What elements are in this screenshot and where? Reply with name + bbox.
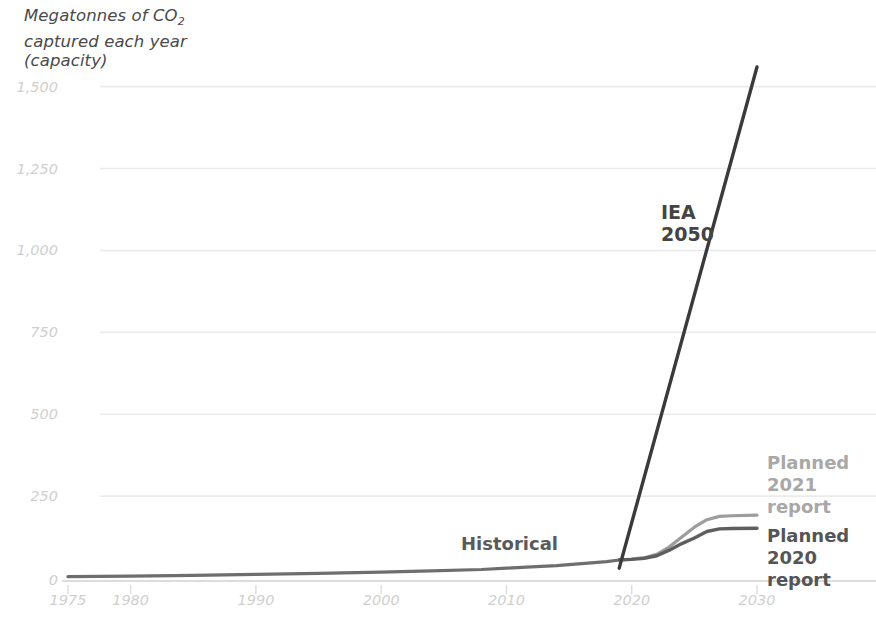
legend-label-planned-2020-report: Planned 2020 report (767, 525, 849, 591)
axis-title-line1: Megatonnes of CO (24, 6, 178, 25)
x-tick-label-1975: 1975 (50, 592, 87, 608)
series-line-iea-2050 (619, 67, 757, 568)
chart-container: Megatonnes of CO2captured each year(capa… (0, 0, 876, 632)
y-tick-label-1500: 1,500 (0, 79, 58, 95)
axis-title-line2: captured each year (24, 32, 187, 51)
y-tick-label-0: 0 (0, 572, 58, 588)
annotation-historical: Historical (461, 533, 558, 555)
y-tick-label-1000: 1,000 (0, 242, 58, 258)
axis-title-subscript: 2 (178, 15, 185, 28)
chart-axis-title: Megatonnes of CO2captured each year(capa… (24, 6, 187, 71)
chart-plot-area (0, 0, 876, 632)
series-line-historical (68, 560, 619, 577)
y-tick-label-250: 250 (0, 488, 58, 504)
series-line-planned-2021-report (619, 515, 757, 560)
y-tick-label-1250: 1,250 (0, 161, 58, 177)
x-tick-label-2010: 2010 (488, 592, 525, 608)
x-tick-label-2030: 2030 (739, 592, 776, 608)
x-tick-label-1990: 1990 (237, 592, 274, 608)
y-tick-label-750: 750 (0, 324, 58, 340)
axis-title-line3: (capacity) (24, 51, 108, 70)
data-series-group (68, 67, 757, 577)
x-tick-marks-group (68, 585, 757, 594)
legend-label-planned-2021-report: Planned 2021 report (767, 452, 849, 518)
gridlines-group (100, 87, 876, 496)
x-tick-label-2020: 2020 (613, 592, 650, 608)
y-tick-label-500: 500 (0, 406, 58, 422)
annotation-iea-2050: IEA 2050 (661, 201, 714, 245)
x-tick-label-2000: 2000 (363, 592, 400, 608)
x-tick-label-1980: 1980 (112, 592, 149, 608)
